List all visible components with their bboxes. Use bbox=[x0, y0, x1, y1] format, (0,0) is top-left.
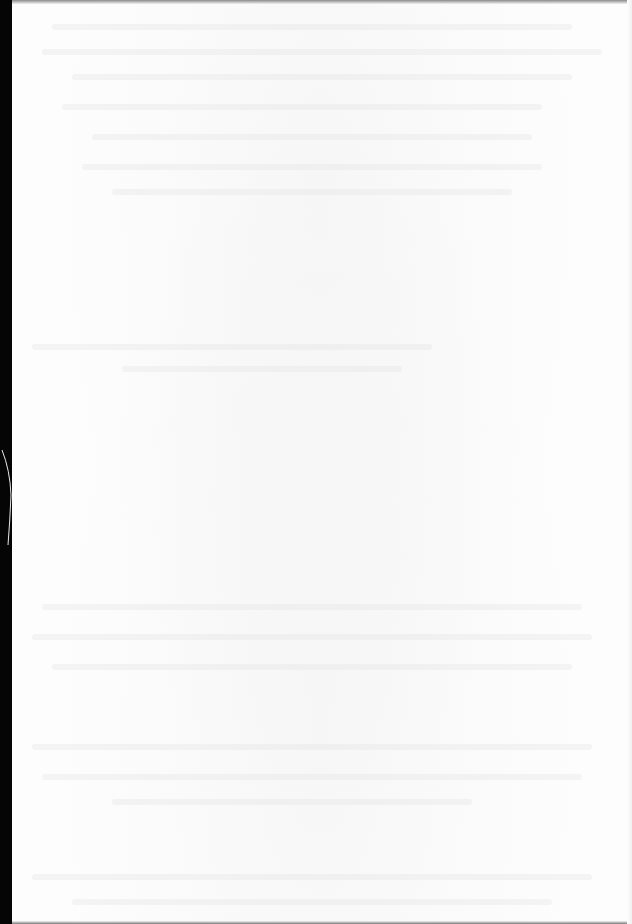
bleed-through-line bbox=[52, 664, 572, 670]
bleed-through-line bbox=[42, 774, 582, 780]
bleed-through-line bbox=[72, 899, 552, 905]
bleed-through-line bbox=[32, 744, 592, 750]
bleed-through-line bbox=[92, 134, 532, 140]
bleed-through-line bbox=[82, 164, 542, 170]
page-body bbox=[12, 4, 627, 921]
bleed-through-line bbox=[122, 366, 402, 372]
bleed-through-line bbox=[62, 104, 542, 110]
right-page-edge bbox=[627, 0, 632, 924]
bleed-through-line bbox=[72, 74, 572, 80]
bleed-through-line bbox=[112, 799, 472, 805]
bleed-through-line bbox=[112, 189, 512, 195]
bleed-through-line bbox=[42, 49, 602, 55]
scanned-page bbox=[0, 0, 632, 924]
bleed-through-line bbox=[32, 344, 432, 350]
bleed-through-line bbox=[52, 24, 572, 30]
bleed-through-line bbox=[42, 604, 582, 610]
bleed-through-line bbox=[32, 874, 592, 880]
bleed-through-line bbox=[32, 634, 592, 640]
